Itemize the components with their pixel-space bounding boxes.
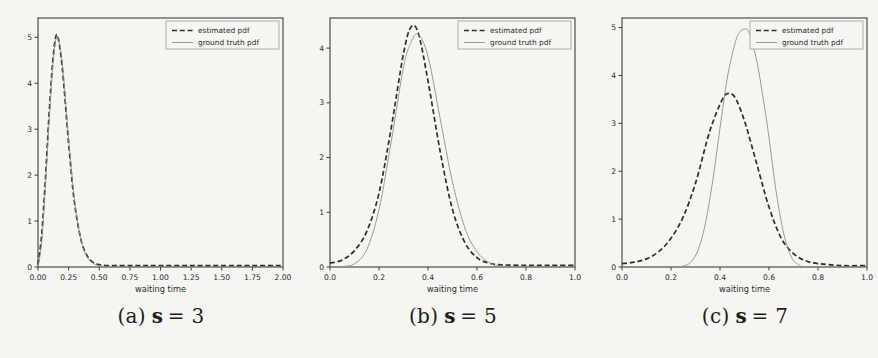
caption-a-value: = 3	[168, 304, 205, 328]
x-tick-label: 1.0	[861, 273, 873, 282]
y-tick-label: 2	[611, 167, 616, 176]
x-tick-label: 0.8	[520, 273, 532, 282]
legend-label: ground truth pdf	[198, 38, 259, 47]
y-tick-label: 1	[27, 217, 32, 226]
x-tick-label: 0.0	[324, 273, 336, 282]
x-tick-label: 0.25	[60, 273, 77, 282]
x-axis-label: waiting time	[427, 284, 478, 294]
caption-c-value: = 7	[751, 304, 788, 328]
x-axis-label: waiting time	[719, 284, 770, 294]
caption-b-value: = 5	[460, 304, 497, 328]
estimated-pdf-curve	[330, 25, 575, 265]
legend-label: estimated pdf	[198, 26, 250, 35]
x-axis-label: waiting time	[135, 284, 186, 294]
legend-label: ground truth pdf	[490, 38, 551, 47]
legend-label: estimated pdf	[782, 26, 834, 35]
y-tick-label: 4	[27, 79, 32, 88]
legend-label: ground truth pdf	[782, 38, 843, 47]
y-tick-label: 2	[319, 153, 324, 162]
ground-truth-pdf-curve	[38, 36, 283, 267]
x-tick-label: 1.75	[244, 273, 261, 282]
caption-b-prefix: (b)	[409, 304, 438, 328]
y-tick-label: 5	[27, 33, 32, 42]
caption-b-variable: s	[444, 304, 456, 328]
axes-frame	[330, 18, 575, 267]
caption-c: (c)s= 7	[584, 304, 876, 328]
x-tick-label: 0.2	[373, 273, 385, 282]
estimated-pdf-curve	[622, 93, 867, 265]
x-tick-label: 0.0	[616, 273, 628, 282]
caption-a: (a)s= 3	[0, 304, 292, 328]
caption-a-variable: s	[152, 304, 164, 328]
y-tick-label: 1	[611, 215, 616, 224]
estimated-pdf-curve	[38, 35, 283, 266]
y-tick-label: 3	[611, 119, 616, 128]
y-tick-label: 0	[611, 263, 616, 272]
x-tick-label: 0.2	[665, 273, 677, 282]
x-tick-label: 1.00	[152, 273, 169, 282]
y-tick-label: 1	[319, 208, 324, 217]
caption-b: (b)s= 5	[292, 304, 584, 328]
x-tick-label: 1.50	[213, 273, 230, 282]
y-tick-label: 2	[27, 171, 32, 180]
x-tick-label: 0.4	[422, 273, 434, 282]
caption-c-prefix: (c)	[702, 304, 730, 328]
y-tick-label: 5	[611, 23, 616, 32]
x-tick-label: 0.50	[91, 273, 108, 282]
chart-canvas-b: 0.00.20.40.60.81.001234waiting timeestim…	[292, 3, 584, 299]
y-tick-label: 0	[27, 263, 32, 272]
x-tick-label: 2.00	[275, 273, 292, 282]
chart-panel-c: 0.00.20.40.60.81.0012345waiting timeesti…	[584, 3, 876, 328]
x-tick-label: 0.4	[714, 273, 726, 282]
pdf-comparison-figure: 0.000.250.500.751.001.251.501.752.000123…	[0, 0, 878, 328]
x-tick-label: 0.6	[471, 273, 483, 282]
x-tick-label: 1.25	[183, 273, 200, 282]
x-tick-label: 1.0	[569, 273, 581, 282]
chart-canvas-a: 0.000.250.500.751.001.251.501.752.000123…	[0, 3, 292, 299]
x-tick-label: 0.6	[763, 273, 775, 282]
y-tick-label: 0	[319, 263, 324, 272]
y-tick-label: 4	[611, 71, 616, 80]
caption-c-variable: s	[736, 304, 748, 328]
chart-canvas-c: 0.00.20.40.60.81.0012345waiting timeesti…	[584, 3, 876, 299]
chart-panel-b: 0.00.20.40.60.81.001234waiting timeestim…	[292, 3, 584, 328]
x-tick-label: 0.75	[121, 273, 138, 282]
caption-a-prefix: (a)	[117, 304, 145, 328]
axes-frame	[622, 18, 867, 267]
y-tick-label: 3	[319, 98, 324, 107]
x-tick-label: 0.8	[812, 273, 824, 282]
x-tick-label: 0.00	[30, 273, 47, 282]
y-tick-label: 4	[319, 44, 324, 53]
axes-frame	[38, 18, 283, 267]
chart-panel-a: 0.000.250.500.751.001.251.501.752.000123…	[0, 3, 292, 328]
y-tick-label: 3	[27, 125, 32, 134]
ground-truth-pdf-curve	[622, 29, 867, 267]
legend-label: estimated pdf	[490, 26, 542, 35]
